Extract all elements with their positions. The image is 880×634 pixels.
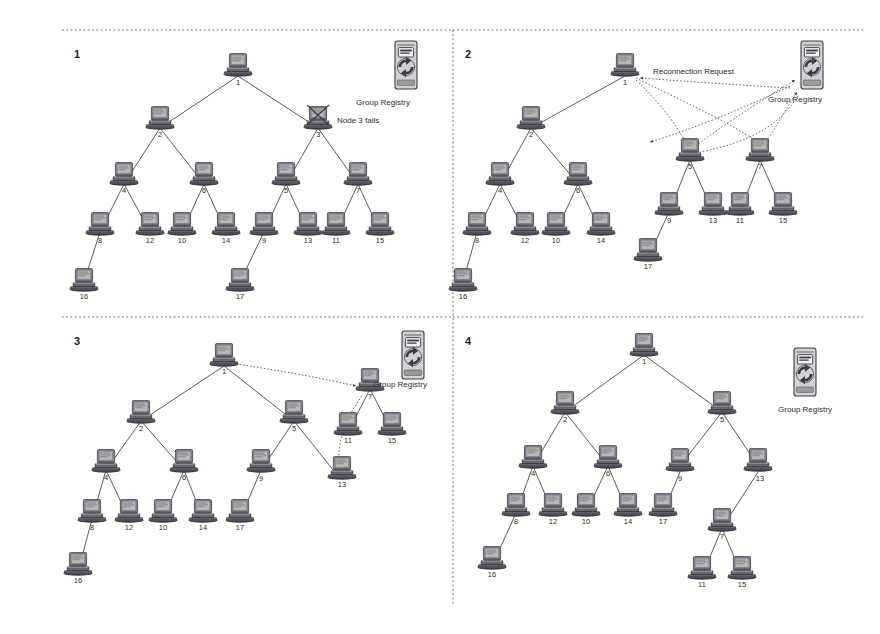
node-label-12: 12 [146,236,154,245]
node-icon-13[interactable] [744,449,773,472]
node-icon-2[interactable] [127,401,156,424]
node-icon-14[interactable] [212,213,241,236]
node-icon-9[interactable] [666,449,695,472]
node-icon-6[interactable] [170,450,199,473]
node-icon-2[interactable] [551,392,580,415]
node-icon-16[interactable] [478,547,507,570]
node-icon-8[interactable] [78,500,107,523]
panel-4: 4 1 2 4 6 [465,334,832,589]
panel-4-nodes: 1 2 4 6 8 12 10 14 16 5 9 17 13 [478,334,773,589]
group-registry-server-icon[interactable] [801,41,823,89]
node-icon-7[interactable] [344,163,373,186]
node-icon-13[interactable] [294,213,323,236]
node-icon-5[interactable] [676,139,705,162]
node-icon-9[interactable] [655,193,684,216]
node-icon-16[interactable] [64,553,93,576]
node-label-9: 9 [667,216,671,225]
node-icon-15[interactable] [728,557,757,580]
panel-3-number: 3 [74,335,80,347]
node-label-16: 16 [80,292,88,301]
node-icon-7[interactable] [746,139,775,162]
node-icon-9[interactable] [250,213,279,236]
node-icon-1[interactable] [630,334,659,357]
group-registry-server-icon[interactable] [402,331,424,379]
node-label-16: 16 [459,292,467,301]
node-icon-1[interactable] [224,54,253,77]
node-label-5: 5 [720,415,724,424]
node-icon-5[interactable] [280,401,309,424]
node-icon-10[interactable] [542,213,571,236]
node-icon-15[interactable] [378,413,407,436]
panel-4-number: 4 [465,335,472,347]
node-label-16: 16 [488,570,496,579]
node-label-9: 9 [262,236,266,245]
panel-1: 1 1 2 [70,41,418,301]
node-icon-17[interactable] [634,239,663,262]
node-label-6: 6 [576,186,580,195]
node-icon-12[interactable] [136,213,165,236]
node-label-2: 2 [563,415,567,424]
group-registry-label: Group Registry [356,98,410,107]
node-icon-1[interactable] [611,54,640,77]
node-label-5: 5 [292,424,296,433]
node-icon-11[interactable] [322,213,351,236]
node-label-8: 8 [90,523,94,532]
node-icon-6[interactable] [190,163,219,186]
node-icon-17[interactable] [226,269,255,292]
node-label-3: 3 [316,130,320,139]
panel-2-reconnection-flows: Reconnection Request [636,67,798,152]
node-label-13: 13 [304,236,312,245]
network-topology-figure: 1 1 2 [0,0,880,634]
node-icon-17[interactable] [649,494,678,517]
node-label-15: 15 [738,580,746,589]
node-icon-11[interactable] [726,193,755,216]
node-icon-2[interactable] [146,107,175,130]
node-label-10: 10 [159,523,167,532]
node-icon-4[interactable] [92,450,121,473]
node-icon-10[interactable] [168,213,197,236]
node-icon-11[interactable] [688,557,717,580]
node-label-17: 17 [236,292,244,301]
node-icon-14[interactable] [189,500,218,523]
node-icon-13[interactable] [699,193,728,216]
node-icon-10[interactable] [572,494,601,517]
node-icon-6[interactable] [594,446,623,469]
node-icon-12[interactable] [539,494,568,517]
node-icon-8[interactable] [86,213,115,236]
node-icon-14[interactable] [587,213,616,236]
node-icon-10[interactable] [149,500,178,523]
node-label-10: 10 [178,236,186,245]
node-icon-8[interactable] [502,494,531,517]
node-label-1: 1 [222,367,226,376]
node-icon-12[interactable] [511,213,540,236]
group-registry-server-icon[interactable] [395,41,417,89]
group-registry-label: Group Registry [373,380,427,389]
panel-2: 2 Reconnection Request [449,41,824,301]
node-icon-12[interactable] [115,500,144,523]
node-icon-2[interactable] [517,107,546,130]
panel-2-number: 2 [465,48,471,60]
node-label-1: 1 [642,357,646,366]
node-icon-17[interactable] [226,500,255,523]
flow-registry-to-root [640,78,790,88]
node-icon-3[interactable] [304,107,333,130]
node-icon-15[interactable] [366,213,395,236]
node-label-7: 7 [720,532,724,541]
node-icon-16[interactable] [70,269,99,292]
node-icon-9[interactable] [247,450,276,473]
node-icon-8[interactable] [463,213,492,236]
node-icon-15[interactable] [769,193,798,216]
node-label-11: 11 [736,216,744,225]
group-registry-label: Group Registry [768,95,822,104]
flow-root-to-node7 [236,364,356,386]
group-registry-label: Group Registry [778,405,832,414]
node-icon-5[interactable] [708,392,737,415]
node-label-8: 8 [514,517,518,526]
node-icon-4[interactable] [110,163,139,186]
node-icon-14[interactable] [614,494,643,517]
node-icon-1[interactable] [210,344,239,367]
node-icon-11[interactable] [334,413,363,436]
node-label-17: 17 [659,517,667,526]
group-registry-server-icon[interactable] [794,348,816,396]
node-icon-6[interactable] [564,163,593,186]
